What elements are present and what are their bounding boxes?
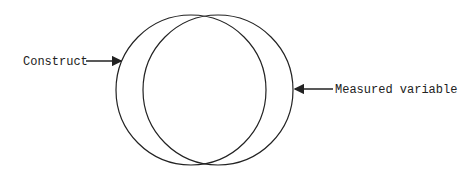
construct-circle [116,15,266,165]
construct-measure-diagram: Construct Measured variable [0,0,470,175]
measured-variable-circle [143,15,293,165]
measured-variable-label: Measured variable [335,83,457,97]
construct-label: Construct [23,55,88,69]
